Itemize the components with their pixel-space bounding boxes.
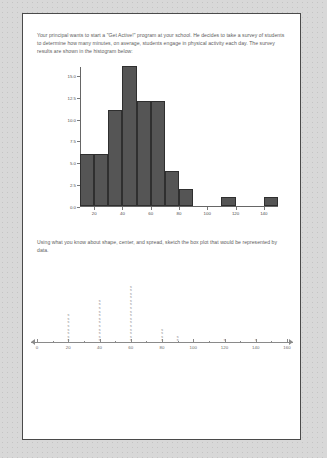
histogram-bar (221, 197, 235, 206)
histogram-y-tick-label: 2.5 (70, 183, 76, 188)
histogram-y-tick (77, 120, 80, 121)
dotplot-tick (37, 339, 38, 343)
dotplot-tick-label: 80 (160, 345, 165, 350)
histogram-y-tick-label: 5.0 (70, 161, 76, 166)
dotplot-minor-tick (115, 341, 116, 344)
histogram-x-tick-label: 140 (260, 211, 267, 216)
dotplot-stack: xxxx (161, 328, 163, 342)
dotplot-tick-label: 60 (128, 345, 133, 350)
dotplot-tick (287, 339, 288, 343)
histogram-bar (94, 154, 108, 207)
dotplot-stack: xxxxxxxxxxxx (98, 299, 100, 342)
dotplot-tick-label: 140 (252, 345, 259, 350)
dotplot-tick (193, 339, 194, 343)
histogram-figure: 0.02.55.07.510.012.515.0 204060801001201… (37, 59, 289, 227)
dotplot-tick-label: 100 (190, 345, 197, 350)
dotplot-minor-tick (146, 341, 147, 344)
dotplot-tick-label: 40 (97, 345, 102, 350)
dotplot-tick-label: 160 (283, 345, 290, 350)
histogram-x-tick (122, 207, 123, 210)
dotplot-tick-label: 0 (36, 345, 38, 350)
histogram-bar (151, 101, 165, 206)
dotplot-figure: 020406080100120140160 xxxxxxxxxxxxxxxxxx… (31, 264, 295, 364)
histogram-x-tick-label: 20 (92, 211, 97, 216)
dotplot-stack: xxxxxxxxxxxxxxxx (130, 285, 132, 343)
histogram-x-tick (207, 207, 208, 210)
histogram-y-tick-label: 15.0 (67, 73, 76, 78)
histogram-bar (165, 171, 179, 206)
histogram-bar (137, 101, 151, 206)
dotplot-x-mark-icon: x (67, 338, 69, 342)
histogram-bar (264, 197, 278, 206)
dotplot-x-mark-icon: x (98, 338, 100, 342)
dotplot-minor-tick (240, 341, 241, 344)
question-prompt-histogram: Your principal wants to start a "Get Act… (37, 31, 289, 56)
histogram-x-tick (264, 207, 265, 210)
question-prompt-boxplot: Using what you know about shape, center,… (37, 238, 289, 254)
histogram-x-tick-label: 40 (120, 211, 125, 216)
histogram-x-tick-label: 80 (177, 211, 182, 216)
dotplot-minor-tick (53, 341, 54, 344)
histogram-y-tick (77, 98, 80, 99)
histogram-bar (80, 154, 94, 207)
dotplot-arrow-right-icon (289, 339, 293, 345)
dotplot-minor-tick (271, 341, 272, 344)
dotplot-x-mark-icon: x (255, 338, 257, 342)
dotplot-stack: xx (177, 335, 179, 342)
histogram-plot-area: 0.02.55.07.510.012.515.0 204060801001201… (80, 67, 278, 207)
histogram-x-tick-label: 60 (148, 211, 153, 216)
histogram-x-tick (94, 207, 95, 210)
histogram-x-tick-label: 120 (232, 211, 239, 216)
dotplot-x-mark-icon: x (130, 338, 132, 342)
dotplot-x-mark-icon: x (161, 338, 163, 342)
dotplot-stack: x (255, 338, 257, 342)
histogram-x-tick-label: 100 (204, 211, 211, 216)
dotplot-stack: xxxxxxxx (67, 313, 69, 342)
histogram-y-tick (77, 76, 80, 77)
dotplot-stack: x (223, 338, 225, 342)
dotplot-x-mark-icon: x (223, 338, 225, 342)
dotplot-minor-tick (209, 341, 210, 344)
dotplot-x-mark-icon: x (177, 338, 179, 342)
histogram-bar (122, 66, 136, 206)
dotplot-minor-tick (84, 341, 85, 344)
histogram-y-tick (77, 207, 80, 208)
dotplot-tick-label: 120 (221, 345, 228, 350)
histogram-x-tick (236, 207, 237, 210)
dotplot-tick-label: 20 (66, 345, 71, 350)
histogram-y-tick-label: 12.5 (67, 95, 76, 100)
histogram-y-tick-label: 0.0 (70, 205, 76, 210)
histogram-x-tick (179, 207, 180, 210)
histogram-bar (179, 189, 193, 207)
dotplot-arrow-left-icon (31, 339, 35, 345)
histogram-bar (108, 110, 122, 206)
histogram-y-tick (77, 141, 80, 142)
histogram-y-tick-label: 10.0 (67, 117, 76, 122)
histogram-y-tick-label: 7.5 (70, 139, 76, 144)
histogram-x-tick (151, 207, 152, 210)
worksheet-page: Your principal wants to start a "Get Act… (22, 13, 301, 440)
